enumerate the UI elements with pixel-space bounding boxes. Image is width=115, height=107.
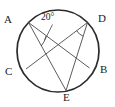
chord-cd [26,23,88,70]
chord-ae [29,23,67,91]
angle-arc-d [77,31,84,37]
angle-leader-a [45,25,53,41]
vertex-label-b: B [100,64,107,75]
vertex-label-c: C [5,66,12,77]
angle-measure-label-a: 20° [41,12,54,22]
geometry-figure: A D B C E 20° [0,0,115,107]
circle-outline [17,10,99,92]
vertex-label-e: E [63,92,70,103]
chord-de [66,23,88,91]
vertex-label-d: D [98,13,106,24]
angle-arc-a [41,36,46,46]
vertex-label-a: A [4,14,12,25]
